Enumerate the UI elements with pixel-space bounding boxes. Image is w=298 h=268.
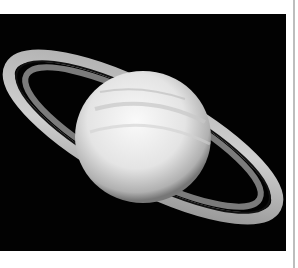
saturn-illustration [0, 14, 286, 251]
planet-body [75, 71, 211, 203]
page-border-line [293, 0, 295, 268]
saturn-photo [0, 14, 286, 251]
